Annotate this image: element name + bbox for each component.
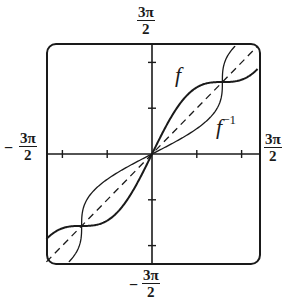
top-axis-label: 3π 2 [137, 4, 155, 37]
bottom-axis-label: 3π 2 [142, 267, 160, 300]
f-inverse-label: f−1 [216, 112, 236, 140]
plot-area [0, 0, 297, 306]
f-label: f [175, 62, 181, 88]
left-axis-label: 3π 2 [19, 130, 37, 163]
bottom-axis-sign: − [129, 276, 138, 294]
right-axis-label: 3π 2 [264, 131, 282, 164]
left-axis-sign: − [4, 139, 13, 157]
